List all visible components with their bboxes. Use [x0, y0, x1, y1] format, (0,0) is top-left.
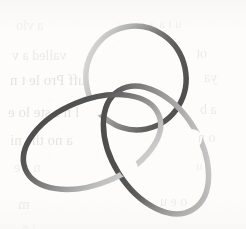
knot-loop-left — [10, 76, 175, 208]
knot-loop-upper — [76, 17, 195, 140]
knot-loop-right — [82, 67, 231, 229]
scanned-page: a vlou t a avalled a votuff Pro le t nya… — [0, 0, 246, 229]
trefoil-knot-figure — [0, 0, 246, 229]
